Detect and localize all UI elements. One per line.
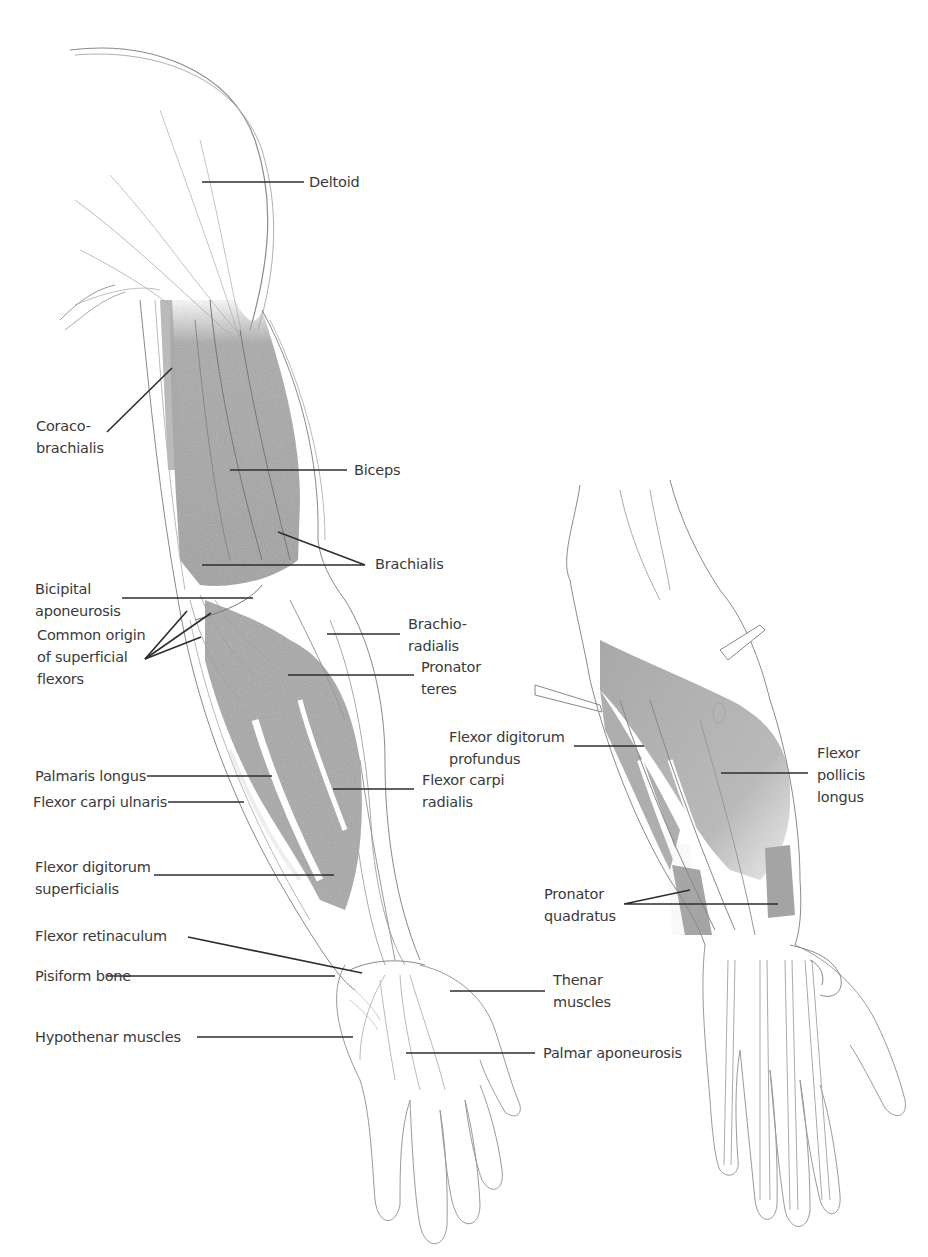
leader-flexor-retinaculum [188, 937, 362, 973]
leader-common-origin-2 [145, 613, 211, 659]
label-thenar-muscles: Thenar muscles [553, 969, 611, 1013]
label-pisiform-bone: Pisiform bone [35, 965, 131, 987]
label-flexor-carpi-ulnaris: Flexor carpi ulnaris [33, 791, 167, 813]
label-brachialis: Brachialis [375, 553, 443, 575]
label-flexor-digitorum-profundus: Flexor digitorum profundus [449, 726, 565, 770]
label-biceps: Biceps [354, 459, 400, 481]
label-coracobrachialis: Coraco- brachialis [36, 415, 104, 459]
label-pronator-teres: Pronator teres [421, 656, 481, 700]
label-bicipital-aponeurosis: Bicipital aponeurosis [35, 578, 121, 622]
anatomy-figure: Deltoid Coraco- brachialis Biceps Brachi… [0, 0, 928, 1257]
label-palmar-aponeurosis: Palmar aponeurosis [543, 1042, 682, 1064]
left-hand [337, 961, 521, 1244]
label-flexor-retinaculum: Flexor retinaculum [35, 925, 167, 947]
label-deltoid: Deltoid [309, 171, 360, 193]
label-palmaris-longus: Palmaris longus [35, 765, 146, 787]
label-hypothenar-muscles: Hypothenar muscles [35, 1026, 181, 1048]
label-flexor-digitorum-superficialis: Flexor digitorum superficialis [35, 856, 151, 900]
label-brachioradialis: Brachio- radialis [408, 613, 467, 657]
label-flexor-carpi-radialis: Flexor carpi radialis [422, 769, 504, 813]
superficial-arm [60, 48, 274, 340]
right-hand [703, 945, 906, 1227]
label-flexor-pollicis-longus: Flexor pollicis longus [817, 742, 865, 808]
label-common-origin-superficial-flexors: Common origin of superficial flexors [37, 624, 146, 690]
label-pronator-quadratus: Pronator quadratus [544, 883, 616, 927]
